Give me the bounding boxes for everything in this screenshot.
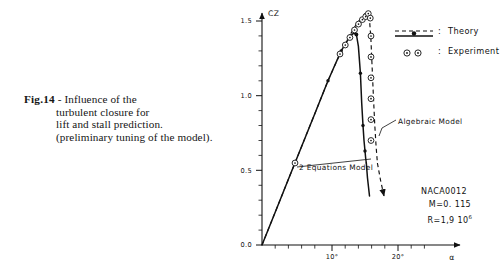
annotation-algebraic-model: Algebraic Model	[398, 117, 463, 126]
axis-y: 0.0 0.5 1.0 1.5 CZ	[241, 9, 280, 249]
ytick-label-1: 0.5	[241, 167, 252, 175]
legend-entry-experiment: : Experiment	[393, 44, 499, 64]
legend-label-experiment: Experiment	[448, 46, 499, 56]
series-two-equations-model	[262, 33, 370, 245]
case-reynolds: R=1,9 106	[398, 211, 490, 227]
legend-entry-theory: : Theory	[393, 24, 499, 44]
theory-key-icon	[393, 24, 435, 42]
figure-scan: Fig.14 - Influence of the turbulent clos…	[0, 0, 504, 269]
annotation-leaders	[297, 120, 396, 167]
case-airfoil: NACA0012	[398, 185, 490, 198]
legend-label-theory: Theory	[448, 26, 479, 36]
case-conditions-block: NACA0012 M=0. 115 R=1,9 106	[398, 185, 490, 227]
legend-colon-experiment: :	[438, 46, 441, 56]
axis-x: 10° 20° α	[262, 245, 460, 262]
legend-colon-theory: :	[438, 26, 441, 36]
case-reynolds-exponent: 6	[469, 214, 473, 220]
xtick-label-0: 10°	[326, 253, 339, 261]
experiment-key-icon	[393, 44, 435, 62]
case-reynolds-value: R=1,9 10	[428, 216, 469, 225]
series-algebraic-model	[262, 14, 384, 245]
x-axis-title: α	[449, 253, 454, 262]
case-mach: M=0. 115	[398, 198, 490, 211]
ytick-label-2: 1.0	[241, 92, 252, 100]
xtick-label-1: 20°	[392, 253, 405, 261]
ytick-label-3: 1.5	[241, 17, 252, 25]
plot-legend: : Theory : Experiment	[393, 24, 499, 64]
y-axis-title: CZ	[268, 9, 279, 18]
ytick-label-0: 0.0	[241, 241, 252, 249]
annotation-two-equations-model: 2 Equations Model	[299, 163, 373, 172]
